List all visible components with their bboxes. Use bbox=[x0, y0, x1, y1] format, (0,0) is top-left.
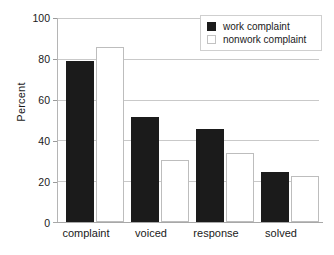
y-tick-label-60: 60 bbox=[0, 95, 50, 106]
hollow-square-icon bbox=[207, 35, 216, 44]
legend-label-work-complaint: work complaint bbox=[223, 22, 290, 32]
bar-response-nonwork[interactable] bbox=[226, 153, 254, 222]
y-tick-label-40: 40 bbox=[0, 136, 50, 147]
legend-item-nonwork-complaint[interactable]: nonwork complaint bbox=[207, 33, 316, 46]
bar-solved-nonwork[interactable] bbox=[291, 176, 319, 222]
legend-item-work-complaint[interactable]: work complaint bbox=[207, 20, 316, 33]
y-tick-label-100: 100 bbox=[0, 13, 50, 24]
x-axis-line bbox=[53, 222, 323, 223]
legend: work complaint nonwork complaint bbox=[200, 15, 322, 51]
bar-group-voiced bbox=[131, 18, 191, 222]
bar-voiced-nonwork[interactable] bbox=[161, 160, 189, 222]
y-tick-label-20: 20 bbox=[0, 177, 50, 188]
legend-label-nonwork-complaint: nonwork complaint bbox=[223, 35, 306, 45]
bar-response-work[interactable] bbox=[196, 129, 224, 222]
bar-complaint-nonwork[interactable] bbox=[96, 47, 124, 222]
bar-group-complaint bbox=[66, 18, 126, 222]
bar-voiced-work[interactable] bbox=[131, 117, 159, 222]
filled-square-icon bbox=[207, 22, 216, 31]
bar-solved-work[interactable] bbox=[261, 172, 289, 222]
x-label-solved: solved bbox=[231, 227, 331, 239]
bar-complaint-work[interactable] bbox=[66, 61, 94, 222]
bar-chart: Percent 100 80 60 40 20 0 bbox=[0, 0, 334, 255]
y-tick-label-80: 80 bbox=[0, 54, 50, 65]
